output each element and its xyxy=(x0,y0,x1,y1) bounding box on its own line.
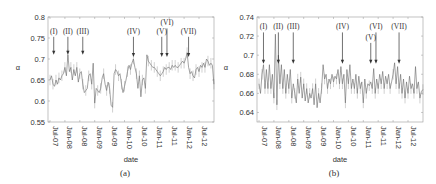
y-tick-label: 0.74 xyxy=(239,13,254,22)
arrow-down-icon xyxy=(397,60,400,64)
y-tick-label: 0.64 xyxy=(239,108,254,117)
x-axis-label: date xyxy=(124,155,139,164)
event-annotation-label: (VII) xyxy=(181,27,197,36)
event-annotation-label: (II) xyxy=(273,22,283,31)
x-axis-label: date xyxy=(333,155,348,164)
panel-caption: (b) xyxy=(329,168,340,178)
event-annotation-label: (III) xyxy=(77,27,90,36)
x-tick-label: Jul-07 xyxy=(51,126,60,146)
arrow-down-icon xyxy=(341,60,344,64)
x-tick-label: Jan-09 xyxy=(304,126,313,149)
x-tick-label: Jul-08 xyxy=(289,126,298,146)
x-tick-label: Jul-07 xyxy=(260,126,269,146)
panel-a: 0.550.60.650.70.750.8Jul-07Jan-08Jul-08J… xyxy=(16,13,214,179)
y-tick-label: 0.72 xyxy=(239,32,254,41)
arrow-down-icon xyxy=(369,60,372,64)
data-series xyxy=(50,53,214,108)
event-annotation-label: (I) xyxy=(50,27,58,36)
arrow-down-icon xyxy=(160,53,163,57)
panel-caption: (a) xyxy=(120,168,130,178)
data-series xyxy=(259,34,423,108)
x-tick-label: Jan-12 xyxy=(185,126,194,149)
x-tick-label: Jul-12 xyxy=(200,126,209,146)
y-tick-label: 0.55 xyxy=(30,118,45,127)
event-annotation-label: (V) xyxy=(157,27,168,36)
event-annotation-label: (IV) xyxy=(127,27,140,36)
y-tick-label: 0.6 xyxy=(35,97,45,106)
y-tick-label: 0.75 xyxy=(30,34,45,43)
arrow-down-icon xyxy=(292,60,295,64)
event-annotation-label: (VI) xyxy=(161,18,174,27)
x-tick-label: Jan-11 xyxy=(155,126,164,148)
x-tick-label: Jul-09 xyxy=(319,126,328,146)
event-annotation-label: (VII) xyxy=(391,22,407,31)
event-annotation-label: (VI) xyxy=(370,22,383,31)
x-tick-label: Jan-09 xyxy=(95,126,104,149)
event-annotation-label: (III) xyxy=(287,22,300,31)
y-tick-label: 0.8 xyxy=(35,13,45,22)
x-tick-label: Jul-10 xyxy=(349,126,358,146)
event-annotation-label: (V) xyxy=(366,33,377,42)
event-annotation-label: (IV) xyxy=(336,22,349,31)
x-tick-label: Jul-12 xyxy=(409,126,418,146)
arrow-down-icon xyxy=(262,60,265,64)
arrow-down-icon xyxy=(81,51,84,55)
x-tick-label: Jan-10 xyxy=(334,126,343,149)
x-tick-label: Jan-11 xyxy=(364,126,373,148)
x-tick-label: Jul-11 xyxy=(379,126,388,146)
arrow-down-icon xyxy=(165,53,168,57)
y-tick-label: 0.7 xyxy=(35,55,45,64)
panel-b: 0.640.660.680.70.720.74Jul-07Jan-08Jul-0… xyxy=(224,13,423,179)
x-tick-label: Jul-10 xyxy=(140,126,149,146)
arrow-down-icon xyxy=(374,60,377,64)
x-tick-label: Jul-09 xyxy=(110,126,119,146)
x-tick-label: Jan-08 xyxy=(274,126,283,149)
y-tick-label: 0.66 xyxy=(239,89,254,98)
arrow-down-icon xyxy=(277,60,280,64)
y-tick-label: 0.7 xyxy=(244,51,254,60)
y-tick-label: 0.68 xyxy=(239,70,254,79)
y-axis-label: α xyxy=(16,63,21,72)
y-tick-label: 0.65 xyxy=(30,76,45,85)
x-tick-label: Jul-11 xyxy=(170,126,179,146)
figure: 0.550.60.650.70.750.8Jul-07Jan-08Jul-08J… xyxy=(0,0,436,184)
arrow-down-icon xyxy=(66,51,69,55)
x-tick-label: Jan-08 xyxy=(65,126,74,149)
x-tick-label: Jan-12 xyxy=(394,126,403,149)
event-annotation-label: (I) xyxy=(260,22,268,31)
arrow-down-icon xyxy=(52,51,55,55)
y-axis-label: α xyxy=(224,63,229,72)
x-tick-label: Jul-08 xyxy=(80,126,89,146)
arrow-down-icon xyxy=(132,53,135,57)
x-tick-label: Jan-10 xyxy=(125,126,134,149)
event-annotation-label: (II) xyxy=(63,27,73,36)
